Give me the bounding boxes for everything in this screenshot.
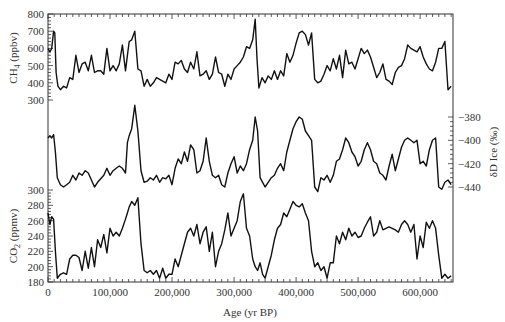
tick-label: 220 [28, 245, 45, 257]
x-axis-title: Age (yr BP) [223, 306, 277, 319]
tick-label: 280 [28, 199, 45, 211]
svg-text:δD Ice (‰): δD Ice (‰) [487, 126, 500, 177]
deltad-series-line [48, 105, 451, 191]
tick-label: 300,000 [216, 286, 252, 298]
ch4-axis-title: CH4 (ppbv) [7, 32, 22, 84]
svg-text:CH4 (ppbv): CH4 (ppbv) [7, 32, 22, 84]
tick-label: 260 [28, 215, 45, 227]
ch4-series-line [48, 19, 451, 90]
tick-label: 800 [28, 8, 45, 20]
tick-label: 300 [28, 184, 45, 196]
tick-label: 100,000 [92, 286, 128, 298]
tick-label: 300 [28, 94, 45, 106]
tick-label: 600,000 [402, 286, 438, 298]
tick-label: −420 [458, 158, 481, 170]
tick-label: −440 [458, 181, 481, 193]
tick-label: 200 [28, 261, 45, 273]
tick-label: 500 [28, 60, 45, 72]
data-series [48, 19, 451, 278]
tick-label: 400,000 [278, 286, 314, 298]
tick-label: −400 [458, 134, 481, 146]
tick-label: 200,000 [154, 286, 190, 298]
tick-label: 240 [28, 230, 45, 242]
tick-label: 400 [28, 77, 45, 89]
tick-label: −380 [458, 111, 481, 123]
co2-series-line [48, 194, 451, 278]
tick-label: 600 [28, 42, 45, 54]
deltad-axis-title: δD Ice (‰) [487, 126, 500, 177]
tick-label: 700 [28, 25, 45, 37]
tick-label: 0 [45, 286, 51, 298]
co2-axis-title: CO2 (ppmv) [7, 208, 22, 263]
tick-label: 180 [28, 276, 45, 288]
svg-text:CO2 (ppmv): CO2 (ppmv) [7, 208, 22, 263]
tick-label: 500,000 [340, 286, 376, 298]
ice-core-chart: 0100,000200,000300,000400,000500,000600,… [0, 0, 505, 322]
